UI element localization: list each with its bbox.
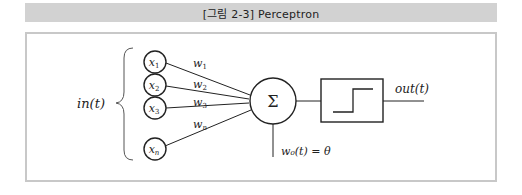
weight-w1-label: w1 — [193, 57, 207, 71]
weight-w3-label: w3 — [193, 96, 207, 110]
output-label: out(t) — [395, 82, 429, 96]
weight-wn-label: wn — [193, 118, 207, 132]
input-label: in(t) — [77, 96, 105, 111]
sigma-icon: Σ — [267, 92, 278, 111]
bias-label: w₀(t) = θ — [281, 145, 331, 158]
brace-icon — [116, 48, 133, 160]
weight-w2-label: w2 — [193, 78, 207, 92]
perceptron-diagram: in(t) x1 x2 x3 xn w1 w2 w3 wn Σ w₀(t) = … — [0, 0, 522, 195]
activation-box — [321, 79, 383, 122]
weight-connections — [165, 63, 251, 146]
